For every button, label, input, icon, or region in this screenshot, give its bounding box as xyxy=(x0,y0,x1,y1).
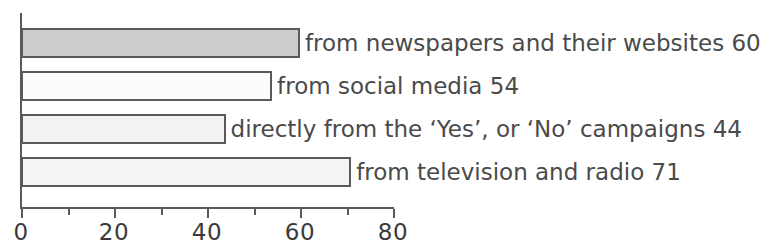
x-tick-minor-50 xyxy=(254,209,256,215)
bar-4[interactable] xyxy=(21,157,351,187)
bar-row[interactable]: from newspapers and their websites 60 xyxy=(21,28,393,58)
x-tick-label-20: 20 xyxy=(99,218,129,246)
x-tick-label-60: 60 xyxy=(285,218,315,246)
bar-label-2: from social media 54 xyxy=(272,73,519,99)
bar-1[interactable] xyxy=(21,28,300,58)
bar-label-1: from newspapers and their websites 60 xyxy=(300,30,761,56)
x-tick-minor-30 xyxy=(161,209,163,215)
bar-label-3: directly from the ‘Yes’, or ‘No’ campaig… xyxy=(226,116,742,142)
x-tick-minor-10 xyxy=(68,209,70,215)
x-tick-major-40 xyxy=(207,209,209,218)
x-tick-major-0 xyxy=(21,209,23,218)
x-tick-label-40: 40 xyxy=(192,218,222,246)
x-tick-major-80 xyxy=(393,209,395,218)
bar-row[interactable]: from television and radio 71 xyxy=(21,157,393,187)
x-tick-major-60 xyxy=(300,209,302,218)
bar-label-4: from television and radio 71 xyxy=(351,159,681,185)
x-tick-label-80: 80 xyxy=(378,218,408,246)
x-tick-major-20 xyxy=(114,209,116,218)
x-tick-minor-70 xyxy=(347,209,349,215)
x-tick-label-0: 0 xyxy=(13,218,28,246)
bar-2[interactable] xyxy=(21,71,272,101)
bar-row[interactable]: directly from the ‘Yes’, or ‘No’ campaig… xyxy=(21,114,393,144)
bar-3[interactable] xyxy=(21,114,226,144)
bar-row[interactable]: from social media 54 xyxy=(21,71,393,101)
